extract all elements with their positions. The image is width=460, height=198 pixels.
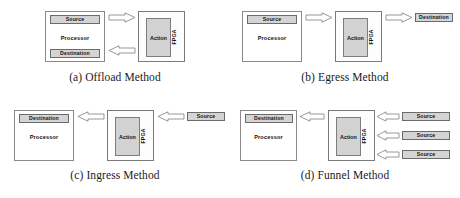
- destination-label-b: Destination: [416, 15, 452, 20]
- processor-label-a: Processor: [46, 35, 104, 41]
- destination-label-c: Destination: [20, 116, 68, 121]
- source-label-3-d: Source: [403, 152, 449, 157]
- destination-box-a: Destination: [50, 49, 100, 58]
- panel-funnel-method: Destination Processor Action FPGA Source: [230, 99, 460, 198]
- destination-box-d: Destination: [245, 114, 293, 123]
- destination-label-d: Destination: [246, 116, 292, 121]
- arrow-source-3-to-fpga-d: [376, 149, 400, 160]
- caption-egress: (b) Egress Method: [230, 71, 460, 83]
- processor-box-a: Source Processor Destination: [45, 11, 105, 62]
- panel-offload-method: Source Processor Destination Action FPGA…: [0, 0, 230, 99]
- source-box-a: Source: [50, 15, 100, 24]
- arrow-fpga-to-destination-b: [385, 12, 413, 23]
- action-box-a: Action: [146, 18, 171, 57]
- arrow-fpga-to-processor-c: [77, 111, 105, 122]
- source-box-c: Source: [187, 112, 225, 121]
- source-box-b: Source: [247, 15, 297, 24]
- source-label-c: Source: [188, 114, 224, 119]
- processor-box-d: Destination Processor: [240, 110, 297, 161]
- arrow-source-2-to-fpga-d: [376, 130, 400, 141]
- arrow-fpga-to-processor-d: [299, 111, 325, 122]
- action-label-c: Action: [116, 134, 139, 140]
- panel-ingress-method: Destination Processor Action FPGA Source…: [0, 99, 230, 198]
- fpga-label-a: FPGA: [171, 25, 177, 49]
- processor-label-d: Processor: [241, 134, 296, 140]
- processor-label-b: Processor: [243, 35, 301, 41]
- arrow-fpga-to-processor-a: [108, 45, 136, 56]
- source-label-1-d: Source: [403, 114, 449, 119]
- caption-offload: (a) Offload Method: [0, 71, 230, 83]
- fpga-box-c: Action FPGA: [107, 110, 154, 161]
- processor-box-c: Destination Processor: [14, 110, 74, 161]
- fpga-box-d: Action FPGA: [328, 110, 375, 161]
- arrow-processor-to-fpga-b: [305, 12, 333, 23]
- fpga-label-d: FPGA: [361, 124, 367, 148]
- action-box-c: Action: [115, 117, 140, 156]
- caption-ingress: (c) Ingress Method: [0, 169, 230, 181]
- source-label-2-d: Source: [403, 133, 449, 138]
- fpga-label-b: FPGA: [368, 25, 374, 49]
- action-box-b: Action: [343, 18, 368, 57]
- fpga-label-c: FPGA: [140, 124, 146, 148]
- arrow-source-to-fpga-c: [157, 111, 185, 122]
- source-label-b: Source: [248, 17, 296, 22]
- action-label-b: Action: [344, 35, 367, 41]
- fpga-box-b: Action FPGA: [335, 11, 382, 62]
- action-box-d: Action: [336, 117, 361, 156]
- panel-egress-method: Source Processor Action FPGA Destination…: [230, 0, 460, 99]
- destination-box-c: Destination: [19, 114, 69, 123]
- destination-box-b: Destination: [415, 13, 453, 22]
- processor-box-b: Source Processor: [242, 11, 302, 62]
- arrow-processor-to-fpga-a: [108, 12, 136, 23]
- source-label-a: Source: [51, 17, 99, 22]
- destination-label-a: Destination: [51, 51, 99, 56]
- source-box-3-d: Source: [402, 150, 450, 159]
- figure-offload-methods: Source Processor Destination Action FPGA…: [0, 0, 460, 198]
- action-label-a: Action: [147, 35, 170, 41]
- processor-label-c: Processor: [15, 134, 73, 140]
- fpga-box-a: Action FPGA: [138, 11, 185, 62]
- caption-funnel: (d) Funnel Method: [230, 169, 460, 181]
- source-box-2-d: Source: [402, 131, 450, 140]
- source-box-1-d: Source: [402, 112, 450, 121]
- action-label-d: Action: [337, 134, 360, 140]
- arrow-source-1-to-fpga-d: [376, 111, 400, 122]
